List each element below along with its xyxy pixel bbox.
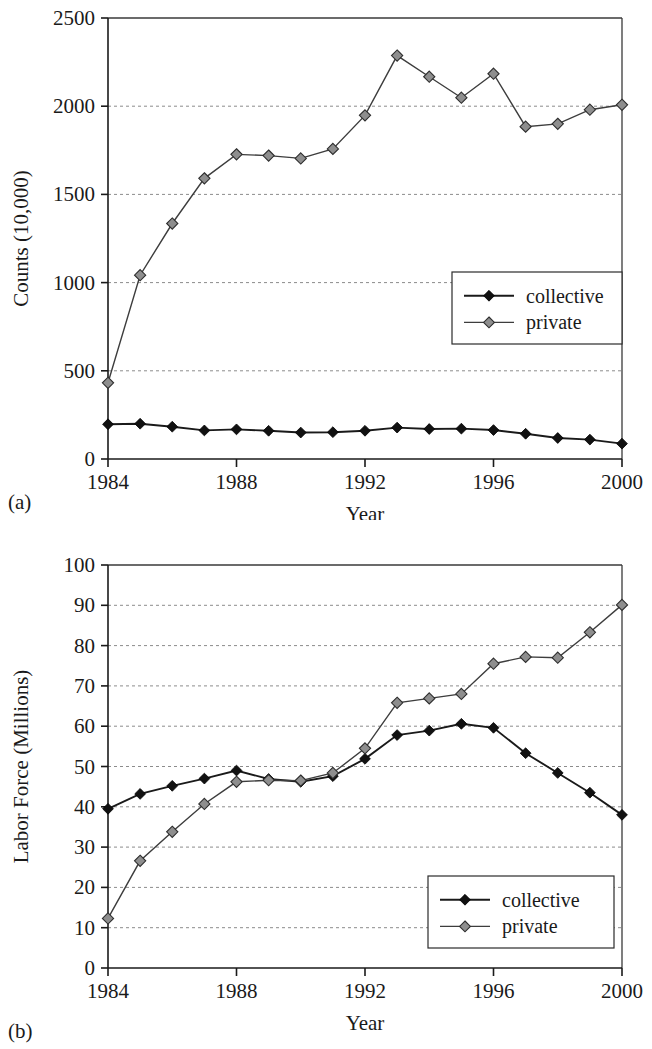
y-tick-label: 2000 [53,94,95,118]
data-point-collective [424,424,435,435]
figure-a: 0500100015002000250019841988199219962000… [0,0,652,520]
y-tick-label: 10 [74,916,95,940]
data-point-collective [135,418,146,429]
y-axis-title: Labor Force (Millions) [9,670,33,864]
data-point-private [167,218,178,229]
y-tick-label: 0 [85,956,96,980]
data-point-collective [584,787,595,798]
data-point-private [616,99,627,110]
legend-label-private: private [526,311,582,334]
x-tick-label: 1992 [344,979,386,1003]
legend-label-private: private [502,915,558,938]
data-point-collective [617,809,628,820]
data-point-collective [103,419,114,430]
x-tick-label: 2000 [601,979,643,1003]
data-point-private [295,775,306,786]
data-point-collective [456,718,467,729]
data-point-collective [167,421,178,432]
chart-legend: collectiveprivate [428,876,614,948]
data-point-private [520,651,531,662]
y-tick-label: 50 [74,755,95,779]
y-tick-label: 100 [64,553,96,577]
x-tick-label: 1996 [473,470,515,494]
x-tick-label: 1984 [87,979,130,1003]
x-tick-label: 1988 [216,979,258,1003]
series-collective [103,718,628,820]
data-point-private [424,71,435,82]
series-collective [103,418,628,449]
panel-label: (b) [8,1019,33,1043]
y-tick-label: 90 [74,593,95,617]
figure-b: 0102030405060708090100198419881992199620… [0,520,652,1049]
data-point-collective [456,423,467,434]
legend-label-collective: collective [526,285,604,307]
y-tick-label: 1000 [53,271,95,295]
legend-label-collective: collective [502,889,580,911]
data-point-collective [488,425,499,436]
y-axis-title: Counts (10,000) [9,170,33,307]
y-axis-ticks: 0102030405060708090100 [64,553,109,980]
data-point-private [263,775,274,786]
data-point-collective [360,425,371,436]
x-axis-ticks: 19841988199219962000 [87,459,643,494]
x-tick-label: 2000 [601,470,643,494]
counts-line-chart: 0500100015002000250019841988199219962000… [0,0,652,520]
y-tick-label: 0 [85,447,96,471]
data-point-private [520,121,531,132]
x-axis-title: Year [346,502,385,520]
data-point-collective [552,433,563,444]
labor-force-line-chart: 0102030405060708090100198419881992199620… [0,520,652,1049]
y-tick-label: 30 [74,835,95,859]
y-tick-label: 500 [64,359,96,383]
y-tick-label: 80 [74,634,95,658]
data-point-collective [263,425,274,436]
data-point-collective [584,434,595,445]
chart-legend: collectiveprivate [452,272,622,344]
y-axis-ticks: 05001000150020002500 [53,6,108,471]
x-axis-title: Year [346,1011,385,1035]
y-tick-label: 60 [74,714,95,738]
plot-frame [108,18,622,459]
data-point-private [135,270,146,281]
data-point-collective [231,424,242,435]
data-point-private [199,173,210,184]
data-point-private [359,743,370,754]
data-point-private [488,68,499,79]
data-point-collective [327,427,338,438]
y-tick-label: 40 [74,795,95,819]
data-point-private [295,153,306,164]
data-point-private [584,104,595,115]
data-point-private [102,913,113,924]
data-point-private [552,118,563,129]
data-point-collective [552,768,563,779]
x-tick-label: 1988 [216,470,258,494]
data-point-collective [295,427,306,438]
data-point-collective [167,780,178,791]
data-point-collective [199,425,210,436]
x-axis-ticks: 19841988199219962000 [87,968,643,1003]
x-tick-label: 1984 [87,470,130,494]
data-point-collective [424,725,435,736]
data-point-private [456,92,467,103]
data-point-collective [135,789,146,800]
data-point-private [263,150,274,161]
x-tick-label: 1996 [473,979,515,1003]
panel-label: (a) [8,490,31,514]
data-point-private [231,149,242,160]
data-point-collective [103,803,114,814]
data-point-collective [520,428,531,439]
data-point-collective [199,773,210,784]
data-point-private [424,693,435,704]
y-tick-label: 1500 [53,182,95,206]
x-tick-label: 1992 [344,470,386,494]
data-point-private [392,697,403,708]
series-line-collective [108,724,622,815]
data-point-collective [617,438,628,449]
data-point-private [231,776,242,787]
y-tick-label: 2500 [53,6,95,30]
data-point-collective [392,422,403,433]
y-tick-label: 70 [74,674,95,698]
data-point-private [392,50,403,61]
data-point-private [102,377,113,388]
y-tick-label: 20 [74,875,95,899]
